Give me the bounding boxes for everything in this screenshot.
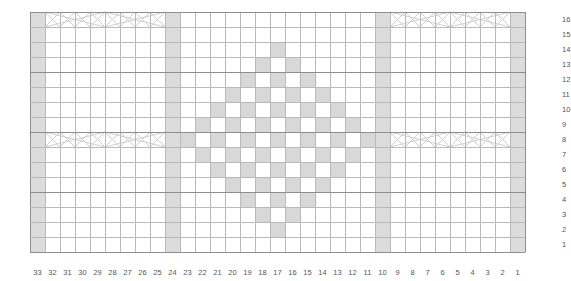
column-label-33: 33	[30, 268, 45, 278]
row-label-14: 14	[559, 42, 571, 57]
column-label-26: 26	[135, 268, 150, 278]
column-label-16: 16	[285, 268, 300, 278]
column-label-32: 32	[45, 268, 60, 278]
column-label-5: 5	[450, 268, 465, 278]
column-label-21: 21	[210, 268, 225, 278]
row-label-13: 13	[559, 57, 571, 72]
column-label-18: 18	[255, 268, 270, 278]
column-label-27: 27	[120, 268, 135, 278]
column-label-24: 24	[165, 268, 180, 278]
grid-hline-6	[30, 102, 525, 103]
column-label-11: 11	[360, 268, 375, 278]
row-label-2: 2	[559, 222, 571, 237]
grid-hline-14	[30, 222, 525, 223]
column-label-15: 15	[300, 268, 315, 278]
row-label-15: 15	[559, 27, 571, 42]
grid-hline-10	[30, 162, 525, 163]
row-label-1: 1	[559, 237, 571, 252]
column-label-30: 30	[75, 268, 90, 278]
row-label-16: 16	[559, 12, 571, 27]
column-label-28: 28	[105, 268, 120, 278]
grid-hline-3	[30, 57, 525, 58]
grid-hline-12	[30, 192, 525, 193]
grid-hline-5	[30, 87, 525, 88]
column-label-23: 23	[180, 268, 195, 278]
grid-hline-8	[30, 132, 525, 133]
grid-hline-13	[30, 207, 525, 208]
column-label-31: 31	[60, 268, 75, 278]
row-label-3: 3	[559, 207, 571, 222]
column-label-3: 3	[480, 268, 495, 278]
grid-hline-7	[30, 117, 525, 118]
row-label-8: 8	[559, 132, 571, 147]
column-label-13: 13	[330, 268, 345, 278]
row-label-6: 6	[559, 162, 571, 177]
column-label-12: 12	[345, 268, 360, 278]
column-label-8: 8	[405, 268, 420, 278]
column-label-29: 29	[90, 268, 105, 278]
grid-hline-15	[30, 237, 525, 238]
column-label-19: 19	[240, 268, 255, 278]
column-label-10: 10	[375, 268, 390, 278]
row-label-7: 7	[559, 147, 571, 162]
chart-grid	[30, 12, 525, 252]
row-label-10: 10	[559, 102, 571, 117]
grid-hline-2	[30, 42, 525, 43]
column-label-25: 25	[150, 268, 165, 278]
column-label-4: 4	[465, 268, 480, 278]
column-label-9: 9	[390, 268, 405, 278]
grid-hline-1	[30, 27, 525, 28]
column-label-22: 22	[195, 268, 210, 278]
column-label-20: 20	[225, 268, 240, 278]
knitting-chart: 3332313029282726252423222120191817161514…	[0, 0, 571, 281]
row-label-5: 5	[559, 177, 571, 192]
grid-hline-4	[30, 72, 525, 73]
row-label-11: 11	[559, 87, 571, 102]
column-label-7: 7	[420, 268, 435, 278]
grid-vline-33	[525, 12, 526, 252]
column-label-17: 17	[270, 268, 285, 278]
grid-hline-16	[30, 252, 525, 253]
column-label-6: 6	[435, 268, 450, 278]
column-label-1: 1	[510, 268, 525, 278]
column-label-14: 14	[315, 268, 330, 278]
row-label-4: 4	[559, 192, 571, 207]
grid-hline-0	[30, 12, 525, 13]
grid-hline-9	[30, 147, 525, 148]
row-label-12: 12	[559, 72, 571, 87]
row-label-9: 9	[559, 117, 571, 132]
grid-hline-11	[30, 177, 525, 178]
column-label-2: 2	[495, 268, 510, 278]
gridline-layer	[30, 12, 525, 252]
